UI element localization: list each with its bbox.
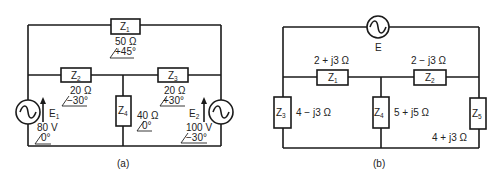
caption-a: (a) xyxy=(117,158,129,169)
voltage-source-e2: E2 100 V −30° xyxy=(181,97,233,143)
circuit-diagrams: Z1 50 Ω +45° Z2 20 Ω −30° Z3 20 Ω +30° Z… xyxy=(0,0,499,178)
impedance-z4: Z4 40 Ω 0° xyxy=(116,96,159,131)
impedance-z3: Z3 20 Ω +30° xyxy=(158,68,188,106)
diagram-b: E 2 + j3 Ω Z1 2 − j3 Ω Z2 Z3 4 − j3 Ω Z4… xyxy=(274,16,486,169)
e-label: E xyxy=(375,42,382,53)
impedance-z2-b: 2 − j3 Ω Z2 xyxy=(411,55,447,85)
caption-b: (b) xyxy=(373,158,385,169)
svg-text:E2: E2 xyxy=(189,108,200,120)
z2-angle: −30° xyxy=(67,95,88,106)
diagram-a: Z1 50 Ω +45° Z2 20 Ω −30° Z3 20 Ω +30° Z… xyxy=(16,19,233,169)
e2-angle: −30° xyxy=(186,132,207,143)
voltage-source-e: E xyxy=(367,16,389,53)
z1-angle: +45° xyxy=(115,46,136,57)
impedance-z2: Z2 20 Ω −30° xyxy=(61,68,92,106)
impedance-z5-b: Z5 4 + j3 Ω xyxy=(432,98,486,143)
voltage-source-e1: E1 80 V 0° xyxy=(16,97,60,144)
z5-value: 4 + j3 Ω xyxy=(432,132,468,143)
svg-text:E1: E1 xyxy=(49,108,60,120)
e1-angle: 0° xyxy=(41,132,51,143)
z3-angle: +30° xyxy=(163,95,184,106)
z3-value: 4 − j3 Ω xyxy=(296,107,332,118)
z4-angle: 0° xyxy=(142,120,152,131)
impedance-z1: Z1 50 Ω +45° xyxy=(110,19,140,58)
impedance-z3-b: Z3 4 − j3 Ω xyxy=(274,97,332,128)
impedance-z1-b: 2 + j3 Ω Z1 xyxy=(314,55,350,85)
impedance-z4-b: Z4 5 + j5 Ω xyxy=(373,97,430,128)
z2-value: 2 − j3 Ω xyxy=(411,55,447,66)
z1-value: 2 + j3 Ω xyxy=(314,55,350,66)
z4-value: 5 + j5 Ω xyxy=(394,107,430,118)
